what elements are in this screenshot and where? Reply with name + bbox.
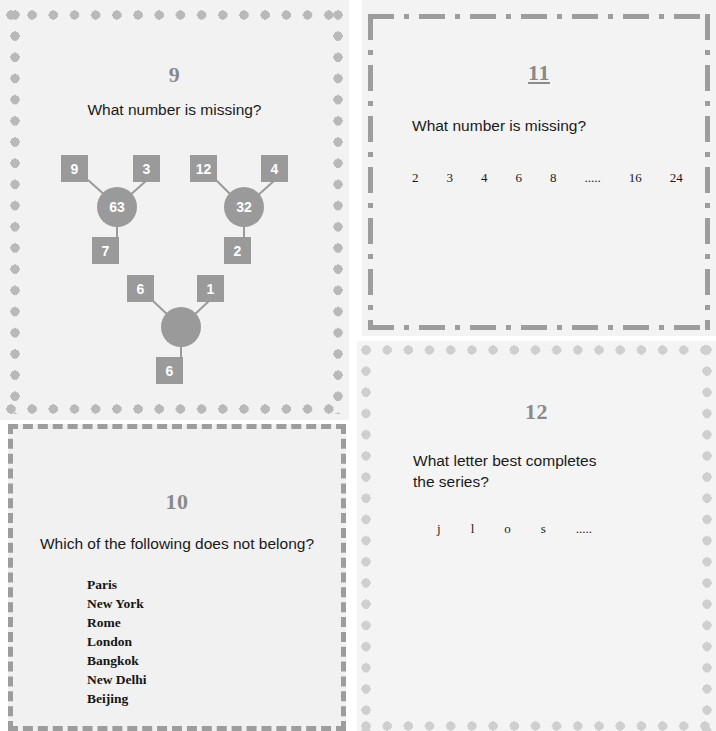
sequence-item: l bbox=[471, 521, 475, 537]
panel-11: 11 What number is missing? 2 3 4 6 8 ...… bbox=[362, 0, 716, 336]
panel-10-dashed-border bbox=[8, 424, 346, 731]
panel-12-sequence: j l o s ..... bbox=[437, 521, 592, 537]
sequence-item: 3 bbox=[447, 170, 454, 186]
sequence-item: 6 bbox=[516, 170, 523, 186]
dashdot-strip-bottom bbox=[368, 325, 710, 330]
node-bottom-center bbox=[161, 307, 201, 347]
panel-10: 10 Which of the following does not belon… bbox=[8, 424, 346, 731]
panel-12: 12 What letter best completes the series… bbox=[357, 341, 716, 731]
sequence-item: j bbox=[437, 521, 441, 537]
panel-11-dashdot-border bbox=[362, 0, 716, 336]
panel-11-question: What number is missing? bbox=[412, 116, 586, 137]
panel-9-diagram: 9 3 63 7 12 4 32 2 6 1 6 bbox=[0, 0, 349, 420]
sequence-item: s bbox=[541, 521, 546, 537]
sequence-item: 4 bbox=[481, 170, 488, 186]
sequence-item: 24 bbox=[670, 170, 683, 186]
node-left-top-left: 9 bbox=[61, 155, 88, 182]
dot-strip-top bbox=[361, 345, 712, 355]
sequence-item: 16 bbox=[629, 170, 642, 186]
panel-11-sequence: 2 3 4 6 8 ..... 16 24 bbox=[412, 170, 683, 186]
option-item: New Delhi bbox=[87, 670, 147, 689]
panel-12-number: 12 bbox=[357, 399, 716, 425]
option-item: Paris bbox=[87, 575, 147, 594]
node-right-top-right: 4 bbox=[261, 155, 288, 182]
panel-11-number: 11 bbox=[362, 60, 716, 86]
sequence-item: 8 bbox=[550, 170, 557, 186]
option-item: Bangkok bbox=[87, 651, 147, 670]
dashdot-strip-top bbox=[368, 14, 710, 19]
node-left-bottom: 7 bbox=[92, 237, 119, 264]
option-item: New York bbox=[87, 594, 147, 613]
panel-10-number: 10 bbox=[8, 489, 346, 515]
panel-12-question: What letter best completes the series? bbox=[413, 451, 613, 493]
puzzle-worksheet-page: 9 What number is missing? 9 3 63 7 bbox=[0, 0, 716, 731]
sequence-item: 2 bbox=[412, 170, 419, 186]
node-bottom-top-right: 1 bbox=[197, 275, 224, 302]
sequence-item: o bbox=[504, 521, 511, 537]
panel-9: 9 What number is missing? 9 3 63 7 bbox=[0, 0, 349, 420]
option-item: London bbox=[87, 632, 147, 651]
node-bottom-top-left: 6 bbox=[127, 275, 154, 302]
node-right-bottom: 2 bbox=[224, 237, 251, 264]
option-item: Beijing bbox=[87, 689, 147, 708]
sequence-item-blank: ..... bbox=[585, 170, 601, 186]
dot-strip-bottom bbox=[361, 721, 712, 731]
option-item: Rome bbox=[87, 613, 147, 632]
panel-10-question: Which of the following does not belong? bbox=[8, 534, 346, 555]
node-bottom-bottom: 6 bbox=[156, 357, 183, 384]
node-left-center: 63 bbox=[97, 187, 137, 227]
node-right-top-left: 12 bbox=[190, 155, 217, 182]
panel-10-options: Paris New York Rome London Bangkok New D… bbox=[87, 575, 147, 708]
node-left-top-right: 3 bbox=[133, 155, 160, 182]
node-right-center: 32 bbox=[224, 187, 264, 227]
sequence-item-blank: ..... bbox=[576, 521, 592, 537]
